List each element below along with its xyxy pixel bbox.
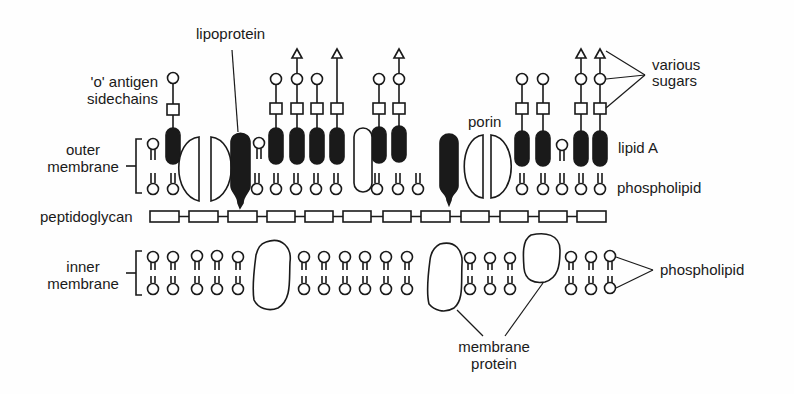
outer-membrane-label-line1: outer [40,141,126,158]
o-antigen-label-line2: sidechains [70,90,158,107]
lipoprotein-shape [231,133,250,208]
inner-membrane-label-line1: inner [40,258,126,275]
various-sugars-leaders [606,51,645,108]
peptidoglycan-chain [150,211,606,222]
membrane-protein-label-line2: protein [452,355,536,372]
various-sugars-label-line2: sugars [652,72,697,89]
porin-label: porin [468,113,501,130]
membrane-diagram: lipoprotein 'o' antigen sidechains outer… [0,0,794,394]
membrane-protein-label-line1: membrane [452,338,536,355]
inner-membrane-bracket [126,251,142,295]
lipoprotein-leader [232,50,238,132]
porin-left [179,137,232,201]
inner-membrane-label-line2: membrane [40,275,126,292]
lipoprotein-shape-2 [440,134,458,205]
lipid-a-label: lipid A [618,139,658,156]
outer-membrane-protein-oval [354,128,372,192]
inner-phospholipid-leaders [616,257,653,288]
membrane-protein-leaders [457,283,543,336]
porin-right [464,135,511,198]
outer-membrane-bracket [126,139,142,193]
o-antigen-label-line1: 'o' antigen [70,73,158,90]
inner-membrane-proteins [253,234,560,311]
peptidoglycan-label: peptidoglycan [40,208,133,225]
phospholipid-inner-label: phospholipid [660,261,744,278]
phospholipid-outer-label: phospholipid [617,179,701,196]
lipoprotein-label: lipoprotein [196,25,265,42]
outer-membrane-label-line2: membrane [40,158,126,175]
various-sugars-label-line1: various [652,56,700,73]
